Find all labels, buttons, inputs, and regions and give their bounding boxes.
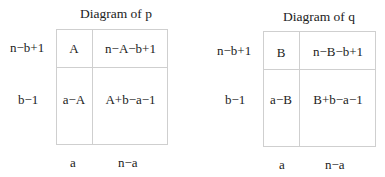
- row-label: b−1: [225, 92, 245, 108]
- row-label: b−1: [18, 92, 38, 108]
- grid-divider-h: [263, 69, 376, 70]
- diagram-title: Diagram of p: [80, 6, 152, 22]
- cell: B+b−a−1: [300, 92, 376, 108]
- cell: n−B−b+1: [300, 44, 376, 60]
- cell: B: [263, 45, 299, 61]
- grid-divider-h: [56, 67, 168, 68]
- row-label: n−b+1: [217, 43, 251, 59]
- col-label: a: [70, 155, 76, 171]
- cell: a−A: [56, 92, 92, 108]
- col-label: n−a: [325, 157, 345, 173]
- cell: n−A−b+1: [93, 41, 168, 57]
- row-label: n−b+1: [10, 40, 44, 56]
- diagram-title: Diagram of q: [283, 9, 355, 25]
- col-label: a: [279, 157, 285, 173]
- col-label: n−a: [118, 155, 138, 171]
- cell: A: [56, 41, 92, 57]
- cell: A+b−a−1: [93, 92, 168, 108]
- cell: a−B: [263, 92, 299, 108]
